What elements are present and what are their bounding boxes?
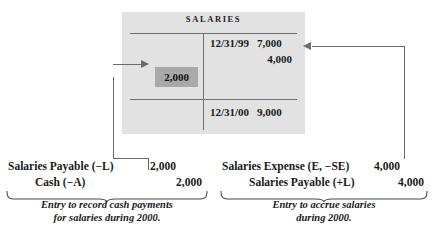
credit-row-amount: 7,000 <box>257 37 282 49</box>
caption-right: Entry to accrue salaries during 2000. <box>220 198 428 224</box>
credit-row-date: 12/31/99 <box>210 37 249 49</box>
caption-left-line2: for salaries during 2000. <box>6 211 208 224</box>
journal-entry-line: Salaries Expense (E, −SE) 4,000 <box>222 160 428 176</box>
caption-left-line1: Entry to record cash payments <box>6 198 208 211</box>
debit-highlight-amount: 2,000 <box>164 71 189 83</box>
t-account-panel: SALARIES 12/31/99 7,000 4,000 12/31/00 9… <box>122 12 305 134</box>
right-connector-vertical <box>404 46 405 159</box>
caption-right-line1: Entry to accrue salaries <box>220 198 428 211</box>
t-account-title: SALARIES <box>122 14 305 24</box>
journal-credit-amount: 4,000 <box>398 176 424 188</box>
t-account-credit-row: 12/31/99 7,000 <box>210 37 282 49</box>
journal-entry-right: Salaries Expense (E, −SE) 4,000 Salaries… <box>222 160 428 192</box>
t-account-vertical-rule <box>203 33 204 130</box>
credit-row-amount: 4,000 <box>267 53 292 65</box>
left-arrow-icon <box>141 60 149 68</box>
journal-account-name: Salaries Expense (E, −SE) <box>222 160 349 172</box>
journal-account-name: Cash (−A) <box>35 176 85 188</box>
journal-entry-line: Salaries Payable (−L) 2,000 <box>8 160 208 176</box>
credit-row-date: 12/31/00 <box>210 106 249 118</box>
right-connector-horizontal <box>312 46 405 47</box>
left-connector-vertical <box>113 77 114 159</box>
caption-left: Entry to record cash payments for salari… <box>6 198 208 224</box>
journal-debit-amount: 4,000 <box>374 160 400 172</box>
t-account-credit-row: 12/31/00 9,000 <box>210 106 282 118</box>
left-connector-bottom <box>113 158 149 159</box>
t-account-credit-row: 4,000 <box>210 53 292 65</box>
journal-entry-left: Salaries Payable (−L) 2,000 Cash (−A) 2,… <box>8 160 208 192</box>
t-account-middle-rule <box>130 99 297 100</box>
credit-row-amount: 9,000 <box>257 106 282 118</box>
journal-account-name: Salaries Payable (−L) <box>8 160 114 172</box>
journal-credit-amount: 2,000 <box>176 176 202 188</box>
journal-account-name: Salaries Payable (+L) <box>249 176 355 188</box>
t-account-top-rule <box>130 33 297 34</box>
journal-debit-amount: 2,000 <box>150 160 176 172</box>
caption-right-line2: during 2000. <box>220 211 428 224</box>
left-connector-horizontal <box>113 64 143 65</box>
t-account-debit-highlight-cell: 2,000 <box>155 67 198 87</box>
right-arrow-icon <box>303 42 311 50</box>
